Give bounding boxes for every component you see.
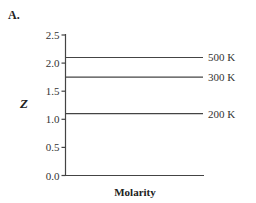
series-label: 500 K [208,51,235,63]
series-label: 300 K [208,71,235,83]
chart: 0.00.51.01.52.02.5 500 K300 K200 K Z Mol… [0,0,256,203]
y-tick-label: 0.0 [46,170,60,182]
x-axis-label: Molarity [114,186,156,198]
y-tick-label: 2.0 [46,57,60,69]
series-lines: 500 K300 K200 K [66,51,236,119]
y-tick-label: 0.5 [46,141,60,153]
y-ticks: 0.00.51.01.52.02.5 [46,29,66,182]
y-tick-label: 1.0 [46,113,60,125]
series-label: 200 K [208,108,235,120]
y-tick-label: 2.5 [46,29,60,41]
y-axis-label: Z [19,96,28,111]
y-tick-label: 1.5 [46,85,60,97]
